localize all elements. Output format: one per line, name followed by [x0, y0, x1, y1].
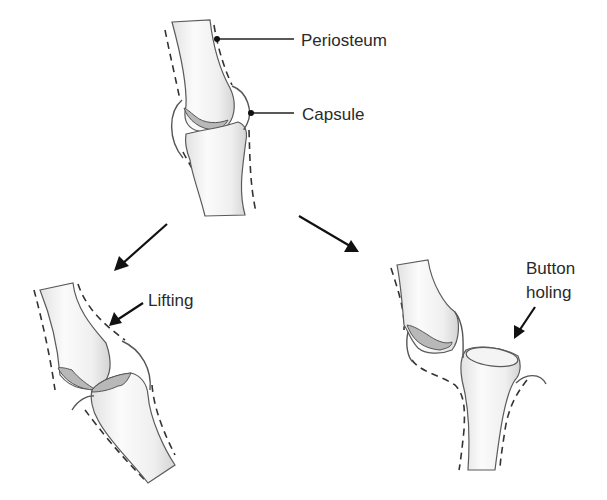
- arrow-head-icon: [514, 325, 525, 339]
- capsule-outline: [172, 100, 183, 158]
- lower-bone: [186, 122, 247, 216]
- transition-arrow-right: [299, 216, 359, 252]
- periosteum-label: Periosteum: [301, 31, 387, 50]
- arrow-head-icon: [344, 240, 359, 252]
- button-holing-arrow: [519, 307, 535, 331]
- lifting-panel: Lifting: [34, 283, 193, 483]
- arrow-head-icon: [114, 256, 129, 271]
- button-holing-panel: Button holing: [391, 259, 575, 470]
- periosteum-leader-dot: [214, 36, 220, 42]
- capsule-label: Capsule: [302, 105, 364, 124]
- transition-arrow-left: [114, 224, 167, 271]
- upper-bone: [172, 20, 234, 132]
- periosteum-line-right-lower: [249, 130, 256, 212]
- capsule-torn-flap: [516, 376, 546, 384]
- periosteum-line-torn: [412, 360, 464, 470]
- capsule-leader-dot: [248, 110, 254, 116]
- button-holing-label-line2: holing: [526, 283, 571, 302]
- normal-joint-panel: Periosteum Capsule: [165, 20, 387, 216]
- joint-diagram: Periosteum Capsule Lifting: [0, 0, 607, 500]
- lifting-label: Lifting: [148, 291, 193, 310]
- lifting-arrow: [117, 303, 143, 320]
- button-holing-label-line1: Button: [526, 259, 575, 278]
